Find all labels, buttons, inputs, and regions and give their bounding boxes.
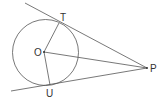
radius-ot	[44, 23, 59, 52]
tangent-diagram: T O P U	[0, 0, 163, 99]
radius-ou	[44, 52, 50, 85]
label-t: T	[60, 12, 66, 23]
point-p	[146, 67, 148, 69]
label-o: O	[34, 47, 42, 58]
tangent-line-u	[11, 68, 147, 91]
label-u: U	[46, 88, 53, 99]
point-o	[43, 51, 45, 53]
label-p: P	[150, 63, 157, 74]
